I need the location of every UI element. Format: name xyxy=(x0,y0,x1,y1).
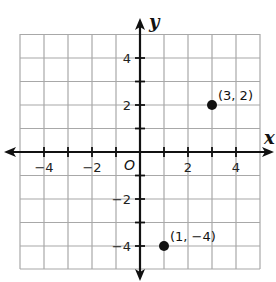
coordinate-plane: y x O −4 −2 2 4 4 2 −2 −4 (3, 2) (1, −4) xyxy=(0,0,276,282)
y-tick-label: 4 xyxy=(123,51,131,66)
point-label: (3, 2) xyxy=(218,88,253,103)
origin-label: O xyxy=(124,157,135,173)
y-tick-label: −4 xyxy=(112,239,131,254)
point-label: (1, −4) xyxy=(170,229,216,244)
x-tick-label: −2 xyxy=(82,160,101,175)
y-tick-label: 2 xyxy=(123,98,131,113)
x-axis-label: x xyxy=(263,127,275,148)
y-axis-label: y xyxy=(148,11,161,32)
y-tick-label: −2 xyxy=(112,192,131,207)
point-marker-icon xyxy=(207,100,217,110)
y-axis xyxy=(135,18,145,281)
point-3-2: (3, 2) xyxy=(207,88,253,110)
point-marker-icon xyxy=(159,241,169,251)
x-tick-label: 4 xyxy=(232,160,240,175)
x-tick-label: 2 xyxy=(184,160,192,175)
x-tick-label: −4 xyxy=(34,160,53,175)
